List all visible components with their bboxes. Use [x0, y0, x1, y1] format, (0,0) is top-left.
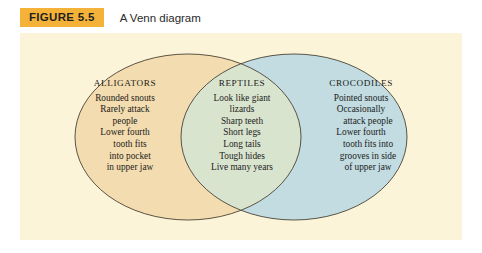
region-text-crocodiles: CROCODILES Pointed snouts Occasionally a…: [303, 78, 419, 174]
region-line: Look like giant: [196, 93, 288, 105]
region-title-crocodiles: CROCODILES: [303, 78, 419, 90]
region-line: Rarely attack: [69, 104, 181, 116]
region-line: of upper jaw: [303, 162, 419, 174]
region-line: into pocket: [69, 151, 181, 163]
region-line: Sharp teeth: [196, 116, 288, 128]
region-line: people: [69, 116, 181, 128]
region-title-alligators: ALLIGATORS: [69, 78, 181, 90]
region-line: Live many years: [196, 162, 288, 174]
region-line: Tough hides: [196, 151, 288, 163]
figure-number-tag: FIGURE 5.5: [20, 8, 104, 27]
region-text-alligators: ALLIGATORS Rounded snouts Rarely attack …: [69, 78, 181, 174]
region-line: Occasionally: [303, 104, 419, 116]
region-line: Pointed snouts: [303, 93, 419, 105]
region-line: Long tails: [196, 139, 288, 151]
region-line: tooth fits into: [303, 139, 419, 151]
figure-container: FIGURE 5.5 A Venn diagram ALLIGATORS Rou…: [0, 0, 482, 253]
region-line: lizards: [196, 104, 288, 116]
region-title-reptiles: REPTILES: [196, 78, 288, 90]
region-line: attack people: [303, 116, 419, 128]
region-line: Rounded snouts: [69, 93, 181, 105]
region-line: Lower fourth: [303, 127, 419, 139]
region-line: Short legs: [196, 127, 288, 139]
region-text-reptiles: REPTILES Look like giant lizards Sharp t…: [196, 78, 288, 174]
region-line: grooves in side: [303, 151, 419, 163]
region-line: Lower fourth: [69, 127, 181, 139]
region-line: tooth fits: [69, 139, 181, 151]
figure-header: FIGURE 5.5 A Venn diagram: [20, 8, 201, 27]
figure-caption: A Venn diagram: [120, 12, 201, 24]
region-line: in upper jaw: [69, 162, 181, 174]
